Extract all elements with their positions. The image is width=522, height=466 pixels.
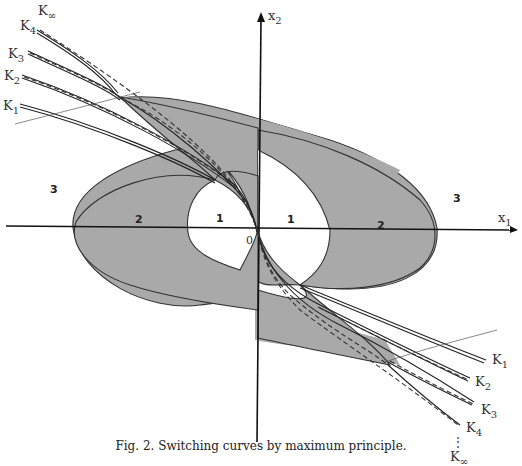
region-label-left-3: 3 (50, 183, 58, 196)
switching-curves-diagram: x2 x1 0 3 2 1 1 2 3 K∞ K4 K3 K2 K1 K1 K2… (0, 0, 522, 466)
region-label-right-3: 3 (453, 192, 461, 205)
curve-k3-lower-b (388, 362, 472, 405)
x2-axis-arrowhead (257, 12, 265, 22)
label-k3-upper: K3 (8, 46, 24, 64)
x2-axis-label: x2 (268, 8, 282, 26)
x1-axis-label: x1 (498, 210, 512, 228)
curve-k4-lower (388, 365, 460, 425)
curve-k3-lower-dash (390, 361, 473, 404)
region-label-left-1: 1 (216, 212, 224, 225)
label-k3-lower: K3 (481, 402, 497, 420)
origin-label: 0 (246, 234, 253, 247)
region-label-left-2: 2 (135, 213, 143, 226)
label-k1-upper: K1 (3, 98, 19, 116)
region-label-right-2: 2 (377, 219, 385, 232)
lower-diagonal-strip (258, 285, 390, 365)
label-k2-upper: K2 (4, 68, 20, 86)
label-k2-lower: K2 (475, 374, 491, 392)
label-k4-lower: K4 (466, 420, 482, 438)
label-k1-lower: K1 (492, 352, 508, 370)
figure-caption: Fig. 2. Switching curves by maximum prin… (0, 439, 522, 453)
region-label-right-1: 1 (287, 213, 295, 226)
label-k4-upper: K4 (20, 18, 36, 36)
curve-k3-upper-b (28, 54, 120, 100)
label-k-infinity-upper: K∞ (38, 3, 56, 21)
